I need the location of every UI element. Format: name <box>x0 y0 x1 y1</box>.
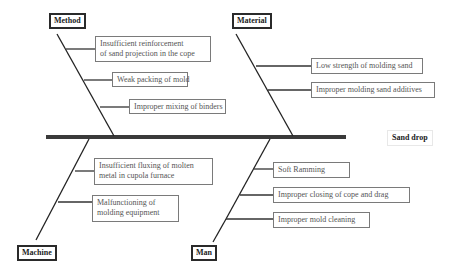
cause-box-machine-2: Malfunctioning of molding equipment <box>92 195 179 222</box>
man-bone <box>226 139 270 219</box>
cause-text: of sand projection in the cope <box>100 49 206 59</box>
cause-text: Insufficient fluxing of molten <box>99 161 208 171</box>
cause-box-material-2: Improper molding sand additives <box>311 82 435 98</box>
effect-label: Sand drop <box>387 130 433 146</box>
cause-box-material-1: Low strength of molding sand <box>311 58 423 74</box>
category-machine: Machine <box>17 245 57 261</box>
category-material: Material <box>232 13 272 29</box>
cause-text: Insufficient reinforcement <box>100 39 206 49</box>
cause-box-man-2: Improper closing of cope and drag <box>273 187 410 203</box>
cause-box-method-3: Improper mixing of binders <box>129 99 226 114</box>
cause-box-method-1: Insufficient reinforcement of sand proje… <box>95 36 211 62</box>
cause-text: metal in cupola furnace <box>99 171 208 181</box>
cause-box-machine-1: Insufficient fluxing of molten metal in … <box>94 158 213 185</box>
fishbone-lines <box>0 0 452 278</box>
cause-box-man-1: Soft Ramming <box>273 162 350 178</box>
cause-text: Malfunctioning of <box>97 198 174 208</box>
category-man: Man <box>191 245 217 261</box>
cause-text: molding equipment <box>97 208 174 218</box>
cause-box-man-3: Improper mold cleaning <box>273 212 370 228</box>
machine-bone <box>36 139 89 240</box>
material-bone <box>236 34 293 136</box>
cause-box-method-2: Weak packing of mold <box>112 72 188 87</box>
category-method: Method <box>49 13 86 29</box>
